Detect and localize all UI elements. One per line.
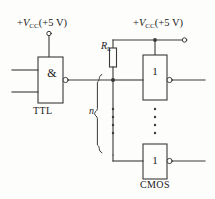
cmos-bottom-gate-symbol: 1 xyxy=(148,155,162,166)
ttl-output-bubble xyxy=(63,77,68,82)
resistor-subscript: L xyxy=(107,45,111,52)
circuit-diagram: +VCC(+5 V) +VCC(+5 V) RL n & TTL 1 1 CMO… xyxy=(0,0,215,199)
vcc-right-terminal xyxy=(182,38,186,42)
cmos-top-gate-body xyxy=(143,55,167,100)
vcc-left-subscript: CC xyxy=(29,22,39,30)
vcc-left-terminal xyxy=(47,31,51,35)
vcc-right-value: (+5 V) xyxy=(155,17,183,28)
cmos-top-output-bubble xyxy=(167,77,172,82)
ttl-gate-symbol: & xyxy=(45,67,59,79)
ttl-family-label: TTL xyxy=(33,106,53,116)
cmos-bottom-output-bubble xyxy=(167,158,172,163)
fanout-brace-shape xyxy=(95,75,102,153)
fanout-label: n xyxy=(89,106,94,116)
resistor-label: RL xyxy=(101,41,111,52)
vcc-right-subscript: CC xyxy=(145,22,155,30)
ttl-gate-body xyxy=(38,57,63,103)
vcc-left-label: +VCC(+5 V) xyxy=(17,18,67,30)
ellipsis-gate-column xyxy=(154,108,156,134)
vcc-right-label: +VCC(+5 V) xyxy=(133,18,183,30)
cmos-top-gate-symbol: 1 xyxy=(148,66,162,77)
cmos-family-label: CMOS xyxy=(140,180,170,190)
vcc-left-value: (+5 V) xyxy=(39,17,67,28)
